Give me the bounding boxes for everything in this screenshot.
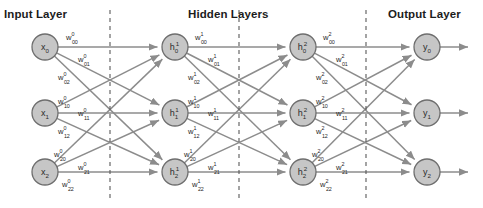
node-label: h22	[298, 165, 308, 179]
node-h2-layer2: h22	[290, 159, 316, 185]
node-label: h12	[298, 106, 308, 120]
neural-network-diagram: x0x1x2h01h11h21h02h12h22y0y1y2 w000w001w…	[0, 0, 483, 208]
weight-label-w1-10: w110	[187, 95, 199, 108]
weight-label-w2-22: w222	[319, 178, 332, 191]
weight-label-w0-21: w021	[77, 161, 90, 174]
node-h0-layer2: h02	[290, 34, 316, 60]
weight-label-w2-11: w211	[335, 107, 347, 120]
edge-group	[54, 47, 468, 172]
edge-hidden-layer-1-0-to-1	[187, 53, 288, 105]
weight-label-w2-21: w221	[335, 161, 348, 174]
weight-label-w1-20: w120	[183, 148, 196, 161]
node-h1-layer1: h11	[162, 100, 188, 126]
weight-label-w2-12: w212	[315, 125, 328, 138]
edge-hidden-layer-1-2-to-0	[184, 59, 290, 163]
edge-input-layer-0-to-1	[57, 53, 160, 105]
node-h0-layer1: h01	[162, 34, 188, 60]
node-label: h11	[170, 106, 179, 120]
weight-label-w0-20: w020	[53, 148, 66, 161]
edge-input-layer-2-to-1	[57, 120, 159, 166]
node-label: h21	[170, 165, 180, 179]
layer-header-2: Output Layer	[388, 8, 461, 20]
node-label: h02	[298, 40, 308, 54]
edge-input-layer-2-to-0	[54, 59, 162, 163]
node-x2: x2	[32, 159, 58, 185]
edge-input-layer-1-to-0	[57, 55, 160, 107]
layer-header-1: Hidden Layers	[188, 8, 269, 20]
node-h1-layer2: h12	[290, 100, 316, 126]
node-label: h01	[170, 40, 180, 54]
edge-hidden-layer-1-2-to-1	[187, 120, 287, 166]
weight-label-w1-02: w102	[187, 71, 200, 84]
node-y1: y1	[414, 100, 440, 126]
node-group: x0x1x2h01h11h21h02h12h22y0y1y2	[32, 34, 440, 185]
weight-label-w2-00: w200	[322, 31, 335, 44]
weight-label-w2-20: w220	[311, 148, 324, 161]
weight-label-w0-12: w012	[57, 125, 70, 138]
weight-label-w2-02: w202	[315, 71, 328, 84]
weight-label-w0-11: w011	[77, 107, 89, 120]
weight-label-w0-00: w000	[65, 31, 78, 44]
weight-label-w1-00: w100	[194, 31, 207, 44]
weight-label-w2-10: w210	[315, 95, 328, 108]
node-h2-layer1: h21	[162, 159, 188, 185]
edge-hidden-layer-2-0-to-1	[314, 53, 411, 105]
layer-header-0: Input Layer	[4, 8, 67, 20]
edge-input-layer-0-to-2	[54, 56, 162, 160]
edge-hidden-layer-2-2-to-0	[312, 59, 415, 162]
node-x0: x0	[32, 34, 58, 60]
node-y0: y0	[414, 34, 440, 60]
weight-label-w1-22: w122	[191, 178, 204, 191]
weight-label-w0-10: w010	[57, 95, 70, 108]
node-x1: x1	[32, 100, 58, 126]
network-svg: x0x1x2h01h11h21h02h12h22y0y1y2 w000w001w…	[0, 0, 483, 208]
weight-label-w1-21: w121	[207, 161, 220, 174]
edge-hidden-layer-1-0-to-2	[184, 56, 290, 160]
edge-hidden-layer-2-1-to-0	[314, 55, 411, 107]
node-y2: y2	[414, 159, 440, 185]
edge-hidden-layer-2-2-to-1	[315, 121, 411, 167]
edge-hidden-layer-1-1-to-0	[187, 55, 288, 107]
weight-label-w0-02: w002	[57, 71, 70, 84]
weight-label-w1-11: w111	[207, 107, 219, 120]
weight-label-w0-22: w022	[61, 178, 74, 191]
weight-label-w1-12: w112	[187, 125, 199, 138]
